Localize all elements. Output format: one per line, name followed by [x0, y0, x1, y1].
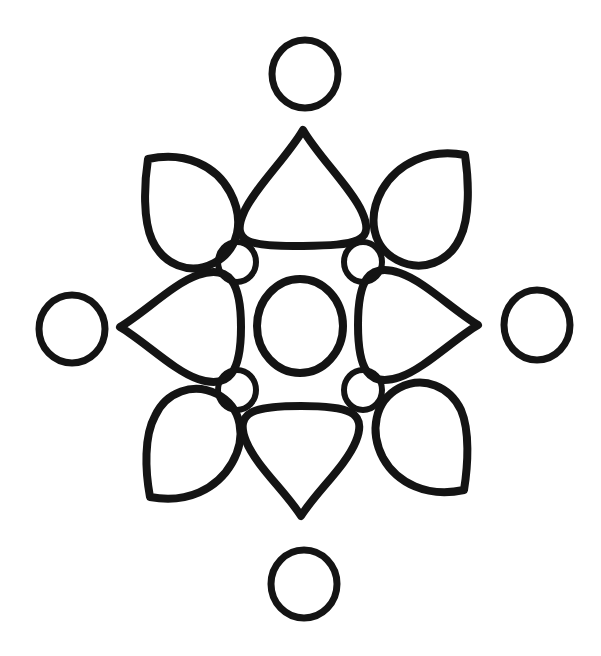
- page-background: [0, 0, 601, 656]
- artwork-canvas: [0, 0, 601, 656]
- mandala-line-art: [0, 0, 601, 656]
